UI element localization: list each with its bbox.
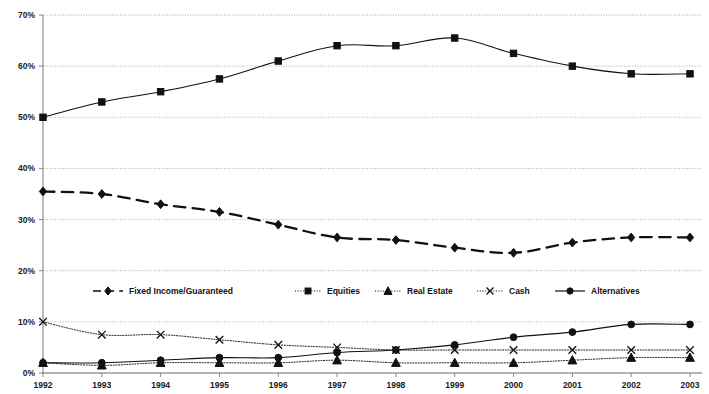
- data-point-marker-triangle: [450, 358, 459, 366]
- data-point-marker-square: [687, 71, 693, 77]
- data-point-marker-square: [393, 42, 399, 48]
- data-point-marker-square: [334, 42, 340, 48]
- data-point-marker-diamond: [392, 236, 399, 245]
- data-point-marker-diamond: [569, 238, 576, 247]
- x-axis-tick-label: 1999: [445, 380, 464, 390]
- data-point-marker-square: [216, 76, 222, 82]
- series-line: [43, 322, 690, 350]
- data-point-marker-square: [628, 71, 634, 77]
- x-axis-tick-label: 2002: [622, 380, 641, 390]
- data-point-marker-circle: [628, 321, 635, 328]
- legend-item-fixed-income-guaranteed[interactable]: Fixed Income/Guaranteed: [93, 286, 233, 296]
- y-axis-tick-label: 0%: [23, 368, 36, 378]
- data-point-marker-diamond: [216, 208, 223, 217]
- data-point-marker-circle: [569, 329, 576, 336]
- data-point-marker-diamond: [451, 243, 458, 252]
- chart-legend[interactable]: Fixed Income/GuaranteedEquitiesReal Esta…: [93, 286, 640, 296]
- series-line: [43, 191, 690, 253]
- x-axis-tick-label: 1993: [92, 380, 111, 390]
- data-point-marker-circle: [216, 354, 223, 361]
- x-axis-tick-label: 1994: [151, 380, 170, 390]
- x-axis-tick-label: 1995: [210, 380, 229, 390]
- axes: [39, 15, 702, 377]
- x-axis-tick-label: 1998: [386, 380, 405, 390]
- data-point-marker-circle: [40, 359, 47, 366]
- data-point-marker-square: [40, 114, 46, 120]
- data-point-marker-cross: [487, 288, 494, 295]
- chart-container: 0%10%20%30%40%50%60%70% 1992199319941995…: [0, 0, 709, 394]
- data-point-marker-square: [569, 63, 575, 69]
- data-point-marker-diamond: [157, 200, 164, 209]
- x-axis-tick-label: 2003: [681, 380, 700, 390]
- data-point-marker-circle: [687, 321, 694, 328]
- data-point-marker-circle: [98, 359, 105, 366]
- data-point-marker-circle: [334, 349, 341, 356]
- x-axis-tick-label: 2001: [563, 380, 582, 390]
- legend-item-alternatives[interactable]: Alternatives: [555, 286, 640, 296]
- series-cash: [39, 318, 694, 354]
- legend-item-real-estate[interactable]: Real Estate: [375, 286, 453, 296]
- legend-item-equities[interactable]: Equities: [295, 286, 360, 296]
- data-point-marker-circle: [510, 334, 517, 341]
- data-point-marker-circle: [451, 341, 458, 348]
- data-point-marker-diamond: [510, 248, 517, 257]
- data-point-marker-square: [275, 58, 281, 64]
- data-series: [39, 35, 695, 369]
- y-axis-tick-label: 70%: [18, 10, 35, 20]
- series-fixed-income-guaranteed: [39, 187, 693, 257]
- allocation-line-chart: 0%10%20%30%40%50%60%70% 1992199319941995…: [0, 0, 709, 394]
- data-point-marker-square: [510, 50, 516, 56]
- data-point-marker-circle: [393, 347, 400, 354]
- x-axis-tick-label: 1997: [328, 380, 347, 390]
- gridlines: [42, 15, 702, 373]
- data-point-marker-diamond: [686, 233, 693, 242]
- x-axis-tick-labels: 1992199319941995199619971998199920002001…: [34, 380, 700, 390]
- data-point-marker-circle: [275, 354, 282, 361]
- data-point-marker-circle: [567, 288, 573, 294]
- series-line: [43, 324, 690, 363]
- data-point-marker-diamond: [105, 287, 112, 295]
- data-point-marker-square: [305, 288, 311, 294]
- data-point-marker-square: [157, 89, 163, 95]
- data-point-marker-diamond: [98, 190, 105, 199]
- y-axis-tick-label: 60%: [18, 61, 35, 71]
- legend-label: Cash: [509, 286, 530, 296]
- series-alternatives: [40, 321, 694, 366]
- x-axis-tick-label: 2000: [504, 380, 523, 390]
- data-point-marker-triangle: [686, 353, 695, 361]
- legend-item-cash[interactable]: Cash: [477, 286, 530, 296]
- series-equities: [40, 35, 693, 121]
- data-point-marker-diamond: [333, 233, 340, 242]
- data-point-marker-triangle: [392, 358, 401, 366]
- data-point-marker-diamond: [628, 233, 635, 242]
- data-point-marker-circle: [157, 357, 164, 364]
- data-point-marker-triangle: [384, 287, 392, 295]
- legend-label: Real Estate: [407, 286, 453, 296]
- x-axis-tick-label: 1996: [269, 380, 288, 390]
- x-axis-tick-label: 1992: [34, 380, 53, 390]
- y-axis-tick-label: 20%: [18, 266, 35, 276]
- y-axis-tick-label: 10%: [18, 317, 35, 327]
- data-point-marker-square: [99, 99, 105, 105]
- y-axis-tick-labels: 0%10%20%30%40%50%60%70%: [18, 10, 35, 378]
- data-point-marker-diamond: [39, 187, 46, 196]
- legend-label: Equities: [327, 286, 360, 296]
- data-point-marker-square: [452, 35, 458, 41]
- series-line: [43, 38, 690, 117]
- data-point-marker-diamond: [275, 220, 282, 229]
- legend-label: Alternatives: [591, 286, 640, 296]
- y-axis-tick-label: 50%: [18, 112, 35, 122]
- y-axis-tick-label: 30%: [18, 215, 35, 225]
- y-axis-tick-label: 40%: [18, 163, 35, 173]
- legend-label: Fixed Income/Guaranteed: [129, 286, 233, 296]
